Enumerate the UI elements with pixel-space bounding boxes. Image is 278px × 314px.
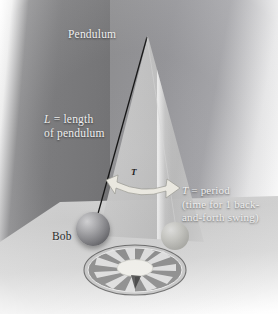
- length-text-2: of pendulum: [44, 126, 105, 140]
- bob-sphere: [76, 212, 110, 246]
- label-pendulum: Pendulum: [68, 28, 116, 40]
- label-arrow-period-symbol: T: [131, 167, 137, 177]
- period-text-1: = period: [188, 184, 230, 196]
- bob-ghost-sphere: [161, 222, 189, 250]
- period-text-3: and-forth swing): [182, 211, 260, 225]
- length-symbol: L: [44, 113, 51, 125]
- length-text-1: = length: [51, 113, 94, 125]
- label-bob: Bob: [52, 230, 72, 242]
- label-length: L = length of pendulum: [44, 112, 105, 140]
- period-arrow: [96, 172, 188, 206]
- period-text-2: (time for 1 back-: [182, 198, 260, 212]
- pendulum-figure: Pendulum L = length of pendulum T = peri…: [0, 0, 278, 314]
- label-period: T = period (time for 1 back- and-forth s…: [182, 184, 260, 225]
- base-disc: [83, 244, 187, 296]
